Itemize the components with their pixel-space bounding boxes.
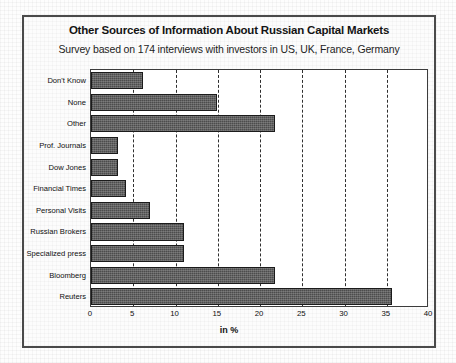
bar-row: Other <box>91 113 427 135</box>
bar <box>91 137 118 154</box>
x-tick-label: 30 <box>330 309 358 318</box>
bar <box>91 72 143 89</box>
x-tick-label: 20 <box>245 309 273 318</box>
category-label: Prof. Journals <box>16 135 86 157</box>
category-label: Other <box>16 113 86 135</box>
bar <box>91 159 118 176</box>
category-label: Specialized press <box>16 243 86 265</box>
bar-row: None <box>91 92 427 114</box>
x-tick-label: 10 <box>161 309 189 318</box>
bar-row: Prof. Journals <box>91 135 427 157</box>
plot-area: Don't KnowNoneOtherProf. JournalsDow Jon… <box>90 69 428 307</box>
bar-row: Financial Times <box>91 178 427 200</box>
bar-row: Russian Brokers <box>91 221 427 243</box>
x-tick-label: 35 <box>372 309 400 318</box>
x-tick-label: 0 <box>76 309 104 318</box>
bar-row: Personal Visits <box>91 200 427 222</box>
chart-subtitle: Survey based on 174 interviews with inve… <box>24 43 434 55</box>
category-label: Bloomberg <box>16 265 86 287</box>
x-tick-label: 40 <box>414 309 442 318</box>
category-label: None <box>16 92 86 114</box>
bar <box>91 288 392 305</box>
bar <box>91 115 275 132</box>
category-label: Financial Times <box>16 178 86 200</box>
x-tick-label: 15 <box>203 309 231 318</box>
bar-row: Dow Jones <box>91 157 427 179</box>
bar-row: Bloomberg <box>91 265 427 287</box>
bar <box>91 202 150 219</box>
screenshot-page: Other Sources of Information About Russi… <box>0 0 456 363</box>
bar-row: Don't Know <box>91 70 427 92</box>
bar <box>91 223 184 240</box>
chart-frame: Other Sources of Information About Russi… <box>22 15 436 348</box>
bar <box>91 245 184 262</box>
chart-title: Other Sources of Information About Russi… <box>24 24 434 36</box>
bar-row: Specialized press <box>91 243 427 265</box>
category-label: Dow Jones <box>16 157 86 179</box>
bar-row: Reuters <box>91 286 427 308</box>
x-axis-title: in % <box>24 325 434 335</box>
bar <box>91 94 217 111</box>
bar <box>91 267 275 284</box>
category-label: Reuters <box>16 286 86 308</box>
bar <box>91 180 126 197</box>
category-label: Don't Know <box>16 70 86 92</box>
x-tick-label: 5 <box>118 309 146 318</box>
category-label: Personal Visits <box>16 200 86 222</box>
x-tick-label: 25 <box>287 309 315 318</box>
category-label: Russian Brokers <box>16 221 86 243</box>
